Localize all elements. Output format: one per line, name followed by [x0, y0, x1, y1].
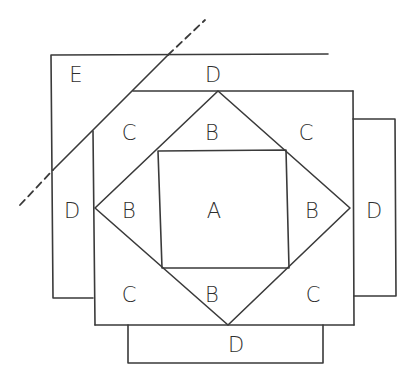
label-d-bottom: D [228, 333, 244, 357]
cut-line [20, 20, 205, 205]
main-square-left [93, 131, 95, 325]
quilt-block-diagram: E D C B C D B A B D C B C D [0, 0, 414, 385]
label-b-right: B [305, 199, 319, 223]
label-c-bottom-right: C [306, 283, 321, 307]
label-b-top: B [205, 121, 219, 145]
label-d-left: D [64, 199, 80, 223]
label-d-top: D [205, 63, 221, 87]
label-c-bottom-left: C [122, 283, 137, 307]
bottom-d-strip [128, 325, 323, 363]
cut-line-dashed-lower [20, 170, 53, 205]
label-b-bottom: B [205, 283, 219, 307]
label-a: A [207, 199, 221, 223]
center-square-a [158, 150, 289, 268]
label-c-top-right: C [299, 121, 314, 145]
label-e: E [69, 63, 82, 87]
label-b-left: B [122, 199, 136, 223]
label-d-right: D [366, 199, 382, 223]
main-square-right [353, 91, 354, 325]
cut-line-dashed-upper [168, 20, 205, 55]
piece-labels: E D C B C D B A B D C B C D [64, 63, 382, 357]
label-c-top-left: C [122, 121, 137, 145]
